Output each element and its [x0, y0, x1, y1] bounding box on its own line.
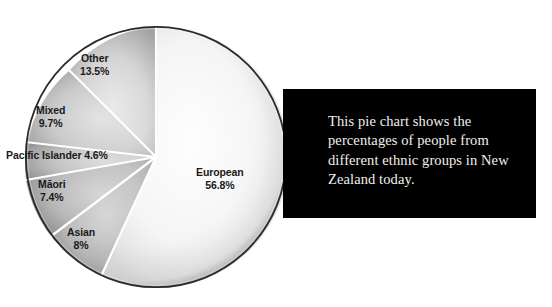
pie-label-asian: Asian 8%	[67, 226, 95, 251]
pie-label-mixed: Mixed 9.7%	[36, 104, 65, 129]
pie-label-pacific-islander: Pacific Islander 4.6%	[6, 149, 108, 162]
caption-text: This pie chart shows the percentages of …	[328, 112, 518, 189]
pie-label-maori-value: 7.4%	[38, 191, 66, 204]
pie-label-other: Other 13.5%	[80, 52, 109, 77]
pie-label-pacific-islander-text: Pacific Islander 4.6%	[6, 149, 108, 161]
pie-label-mixed-name: Mixed	[36, 104, 65, 116]
pie-label-mixed-value: 9.7%	[36, 117, 65, 130]
pie-label-european: European 56.8%	[196, 166, 244, 191]
pie-label-other-value: 13.5%	[80, 65, 109, 78]
pie-label-european-name: European	[196, 166, 244, 178]
pie-label-maori: Māori 7.4%	[38, 178, 66, 203]
pie-label-maori-name: Māori	[38, 178, 66, 190]
caption-box: This pie chart shows the percentages of …	[283, 89, 536, 218]
ethnic-groups-pie-figure: European 56.8% Other 13.5% Mixed 9.7% Pa…	[0, 0, 552, 307]
pie-label-asian-value: 8%	[67, 239, 95, 252]
pie-label-asian-name: Asian	[67, 226, 95, 238]
pie-label-other-name: Other	[81, 52, 109, 64]
pie-label-european-value: 56.8%	[196, 179, 244, 192]
